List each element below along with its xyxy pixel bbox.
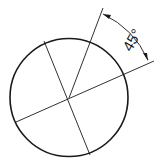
arrowhead-lower bbox=[143, 53, 148, 61]
angle-label: 45° bbox=[119, 26, 145, 54]
extension-line-lower bbox=[16, 61, 154, 122]
arrowhead-upper bbox=[103, 14, 111, 19]
extension-line-upper bbox=[69, 8, 103, 98]
diameter-line bbox=[44, 41, 90, 155]
dimension-diagram: 45° bbox=[0, 0, 164, 166]
